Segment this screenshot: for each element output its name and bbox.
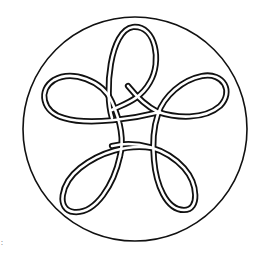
- knot-figure: :: [0, 0, 261, 260]
- knot-drawing: [0, 0, 261, 260]
- enclosing-circle: [23, 17, 247, 241]
- margin-mark: :: [1, 239, 3, 246]
- loop-lower-left: [63, 147, 152, 212]
- knot-strands: [44, 27, 226, 212]
